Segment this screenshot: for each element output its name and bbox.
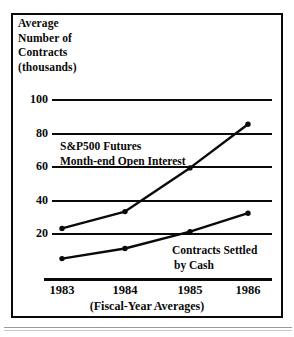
series-point-settled-by-cash-1985 (187, 229, 192, 234)
series-point-settled-by-cash-1984 (122, 246, 127, 251)
series-point-open-interest-1985 (187, 165, 192, 170)
chart-figure: Average Number of Contracts (thousands) … (0, 0, 294, 337)
page-rule-secondary (4, 330, 292, 331)
series-label-open-interest-line2: Month-end Open Interest (60, 154, 186, 169)
x-axis-subtitle: (Fiscal-Year Averages) (11, 299, 283, 314)
series-point-settled-by-cash-1986 (245, 211, 250, 216)
series-point-open-interest-1986 (245, 122, 250, 127)
x-tick-label-1984: 1984 (100, 283, 150, 297)
series-label-settled-by-cash: Contracts Settled by Cash (172, 243, 257, 273)
series-point-open-interest-1984 (122, 209, 127, 214)
series-point-open-interest-1983 (59, 226, 64, 231)
x-tick-label-1983: 1983 (37, 283, 87, 297)
series-label-settled-by-cash-line1: Contracts Settled (172, 243, 257, 258)
x-tick-label-1986: 1986 (223, 283, 273, 297)
series-label-open-interest: S&P500 Futures Month-end Open Interest (60, 139, 186, 169)
series-label-settled-by-cash-line2: by Cash (172, 258, 257, 273)
series-label-open-interest-line1: S&P500 Futures (60, 139, 186, 154)
x-tick-label-1985: 1985 (165, 283, 215, 297)
series-point-settled-by-cash-1983 (59, 256, 64, 261)
page-rule-primary (4, 327, 292, 328)
